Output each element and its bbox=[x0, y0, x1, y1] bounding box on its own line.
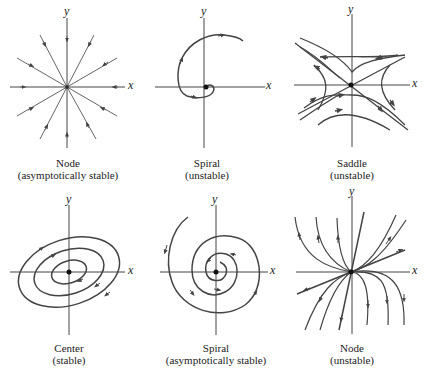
y-axis-label: y bbox=[201, 4, 206, 19]
x-axis-label: x bbox=[266, 78, 271, 93]
x-axis-label: x bbox=[128, 78, 133, 93]
spiral-unstable-portrait bbox=[155, 18, 265, 148]
caption-subtitle: (stable) bbox=[0, 354, 139, 366]
caption-node-stable: Node (asymptotically stable) bbox=[0, 157, 138, 181]
saddle-portrait bbox=[294, 14, 410, 147]
caption-node-unstable: Node (unstable) bbox=[282, 342, 422, 366]
caption-subtitle: (unstable) bbox=[137, 169, 277, 181]
spiral-stable-portrait bbox=[160, 205, 268, 335]
caption-title: Node bbox=[282, 342, 422, 354]
y-axis-label: y bbox=[349, 184, 354, 199]
caption-title: Center bbox=[0, 342, 139, 354]
x-axis-label: x bbox=[270, 263, 275, 278]
caption-title: Node bbox=[0, 157, 138, 169]
center-portrait bbox=[9, 205, 128, 335]
caption-subtitle: (asymptotically stable) bbox=[146, 354, 286, 366]
caption-subtitle: (asymptotically stable) bbox=[0, 169, 138, 181]
node-stable-portrait bbox=[10, 18, 125, 148]
caption-center: Center (stable) bbox=[0, 342, 139, 366]
node-unstable-portrait bbox=[295, 196, 410, 334]
y-axis-label: y bbox=[348, 2, 353, 17]
caption-subtitle: (unstable) bbox=[282, 354, 422, 366]
y-axis-label: y bbox=[212, 192, 217, 207]
phase-portraits-diagram bbox=[0, 0, 425, 375]
x-axis-label: x bbox=[412, 76, 417, 91]
caption-spiral-unstable: Spiral (unstable) bbox=[137, 157, 277, 181]
caption-subtitle: (unstable) bbox=[282, 169, 422, 181]
caption-spiral-stable: Spiral (asymptotically stable) bbox=[146, 342, 286, 366]
x-axis-label: x bbox=[412, 263, 417, 278]
y-axis-label: y bbox=[64, 4, 69, 19]
caption-saddle: Saddle (unstable) bbox=[282, 157, 422, 181]
caption-title: Spiral bbox=[146, 342, 286, 354]
y-axis-label: y bbox=[66, 192, 71, 207]
x-axis-label: x bbox=[128, 263, 133, 278]
caption-title: Saddle bbox=[282, 157, 422, 169]
caption-title: Spiral bbox=[137, 157, 277, 169]
